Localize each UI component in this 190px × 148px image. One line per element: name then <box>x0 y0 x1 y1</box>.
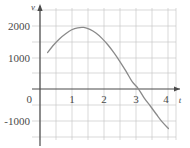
x-tick-label-2: 2 <box>101 93 107 105</box>
y-tick-label-1000: 1000 <box>8 52 31 64</box>
y-axis-title: v <box>31 2 35 12</box>
y-tick-label-2000: 2000 <box>8 20 31 32</box>
x-tick-label-1: 1 <box>69 93 75 105</box>
y-tick-label-neg1000: -1000 <box>4 115 30 127</box>
chart-svg: 2000 1000 0 -1000 1 2 3 4 v t <box>0 0 190 148</box>
x-tick-label-4: 4 <box>163 93 169 105</box>
y-tick-label-0: 0 <box>27 93 33 105</box>
velocity-time-chart: 2000 1000 0 -1000 1 2 3 4 v t <box>0 0 190 148</box>
x-tick-label-3: 3 <box>133 93 139 105</box>
